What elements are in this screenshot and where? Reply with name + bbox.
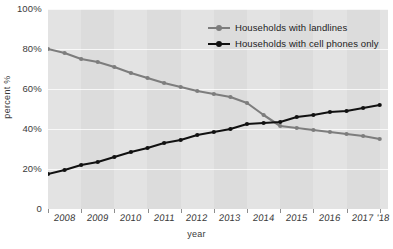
- data-point: [96, 60, 100, 64]
- x-axis-title: year: [0, 229, 393, 239]
- data-point: [145, 146, 149, 150]
- legend-label: Households with landlines: [235, 22, 347, 33]
- x-axis-tick-label: 2009: [86, 212, 109, 223]
- data-point: [361, 106, 365, 110]
- legend-item[interactable]: Households with cell phones only: [208, 36, 388, 51]
- x-axis-tick-label: 2008: [53, 212, 76, 223]
- y-axis-tick-label: 20%: [0, 163, 42, 174]
- data-point: [96, 160, 100, 164]
- line-chart: percent % 100%80%60%40%20%0 200820092010…: [0, 0, 393, 249]
- x-axis-tick-mark: [313, 209, 314, 213]
- x-axis-tick-mark: [247, 209, 248, 213]
- data-point: [62, 168, 66, 172]
- y-axis-tick-label: 100%: [0, 3, 42, 14]
- legend-label: Households with cell phones only: [235, 38, 379, 49]
- x-axis-tick-label: 2017: [351, 212, 374, 223]
- x-axis-tick-mark: [114, 209, 115, 213]
- data-point: [245, 101, 249, 105]
- data-point: [278, 124, 282, 128]
- data-point: [228, 95, 232, 99]
- series-1: [48, 47, 382, 141]
- data-point: [378, 103, 382, 107]
- y-axis-tick-label: 40%: [0, 123, 42, 134]
- data-point: [378, 137, 382, 141]
- data-point: [295, 115, 299, 119]
- x-axis-tick-mark: [48, 209, 49, 213]
- x-axis-tick-label: 2014: [252, 212, 275, 223]
- data-point: [311, 128, 315, 132]
- legend-marker-icon: [208, 23, 230, 33]
- legend-marker-icon: [208, 39, 230, 49]
- data-point: [262, 113, 266, 117]
- data-point: [179, 85, 183, 89]
- data-point: [311, 113, 315, 117]
- data-point: [328, 130, 332, 134]
- data-point: [112, 65, 116, 69]
- data-point: [295, 126, 299, 130]
- x-axis-tick-mark: [81, 209, 82, 213]
- x-axis-tick-mark: [214, 209, 215, 213]
- data-point: [145, 76, 149, 80]
- data-point: [162, 141, 166, 145]
- data-point: [129, 71, 133, 75]
- x-axis-tick-mark: [347, 209, 348, 213]
- data-point: [278, 120, 282, 124]
- data-point: [195, 133, 199, 137]
- data-point: [62, 51, 66, 55]
- y-axis-title: percent %: [2, 62, 12, 132]
- data-point: [79, 163, 83, 167]
- data-point: [245, 122, 249, 126]
- y-axis-tick-label: 0: [0, 203, 42, 214]
- x-axis-tick-label: 2012: [186, 212, 209, 223]
- x-axis-tick-label: 2013: [219, 212, 242, 223]
- data-point: [212, 92, 216, 96]
- x-axis-tick-label: 2015: [285, 212, 308, 223]
- data-point: [344, 132, 348, 136]
- x-axis-tick-mark: [148, 209, 149, 213]
- x-axis-tick-label: 2011: [153, 212, 175, 223]
- data-point: [212, 130, 216, 134]
- x-axis-tick-mark: [280, 209, 281, 213]
- data-point: [179, 138, 183, 142]
- chart-legend: Households with landlinesHouseholds with…: [208, 20, 388, 52]
- data-point: [195, 89, 199, 93]
- data-point: [129, 150, 133, 154]
- data-point: [262, 121, 266, 125]
- data-point: [228, 127, 232, 131]
- series-2: [48, 103, 382, 176]
- data-point: [79, 57, 83, 61]
- x-axis-tick-label: 2010: [119, 212, 142, 223]
- data-point: [162, 81, 166, 85]
- data-point: [328, 110, 332, 114]
- data-point: [112, 155, 116, 159]
- y-axis-tick-label: 60%: [0, 83, 42, 94]
- x-axis-tick-mark: [181, 209, 182, 213]
- legend-item[interactable]: Households with landlines: [208, 20, 388, 35]
- x-axis-tick-label: 2016: [318, 212, 341, 223]
- data-point: [344, 109, 348, 113]
- y-axis-tick-label: 80%: [0, 43, 42, 54]
- x-axis-tick-label: '18: [377, 212, 391, 223]
- data-point: [361, 134, 365, 138]
